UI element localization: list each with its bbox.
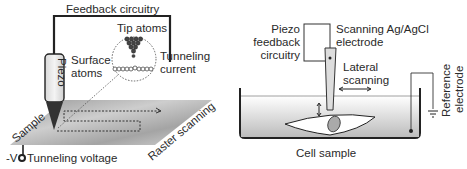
lateral-scanning-label-1: Lateral: [343, 61, 378, 73]
cell-sample-label: Cell sample: [296, 147, 356, 159]
feedback-circuitry-label: Feedback circuitry: [66, 3, 160, 15]
piezo-feedback-label-3: circuitry: [260, 49, 300, 61]
tunneling-current-label-1: Tunneling: [160, 50, 210, 62]
tunneling-voltage-label: Tunneling voltage: [27, 152, 117, 164]
reference-electrode-label-2: electrode: [453, 66, 465, 113]
reference-electrode-dot: [409, 129, 413, 133]
lateral-scanning-label-2: scanning: [343, 74, 389, 86]
tip-atoms-label: Tip atoms: [117, 22, 167, 34]
diagram-canvas: Feedback circuitry Piezo Tip atoms: [0, 0, 467, 169]
ground-icon: [428, 111, 438, 117]
piezo-feedback-label-1: Piezo: [271, 23, 300, 35]
surface-atoms-label-1: Surface: [71, 54, 111, 66]
reference-electrode-label-1: Reference: [440, 64, 452, 117]
voltage-terminal-icon: [19, 155, 25, 161]
piezo-feedback-label-2: feedback: [253, 36, 300, 48]
tunneling-current-label-2: current: [160, 63, 197, 75]
scanning-electrode-label-2: electrode: [336, 36, 383, 48]
scanning-electrode-label-1: Scanning Ag/AgCl: [336, 23, 429, 35]
surface-atoms-label-2: atoms: [71, 67, 103, 79]
piezo-label: Piezo: [56, 58, 68, 87]
electrode-wire-dot: [329, 57, 332, 60]
voltage-prefix: -V: [6, 152, 18, 164]
secm-panel: Piezo feedback circuitry Scanning Ag/AgC…: [240, 23, 465, 159]
stm-panel: Feedback circuitry Piezo Tip atoms: [6, 3, 217, 164]
